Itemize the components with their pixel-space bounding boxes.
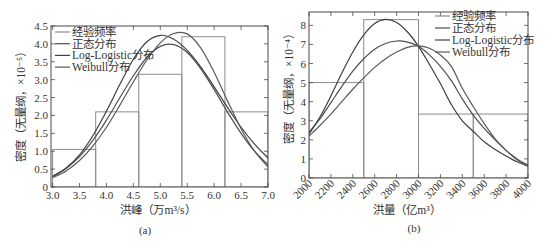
y-tick-label: 2 — [301, 134, 307, 146]
histogram-bar — [309, 83, 364, 178]
x-tick-label: 3.5 — [73, 189, 87, 201]
y-tick-label: 4 — [301, 96, 307, 108]
chart-b-x-axis-label: 洪量（亿m³） — [373, 203, 440, 216]
chart-b-caption: (b) — [408, 222, 421, 235]
x-tick-label: 6.0 — [207, 189, 221, 201]
y-tick-label: 1.0 — [34, 145, 48, 157]
x-tick-label: 3400 — [444, 177, 468, 201]
histogram-bar — [182, 37, 225, 187]
y-tick-label: 4.5 — [34, 20, 48, 32]
y-tick-label: 1 — [301, 153, 307, 165]
x-tick-label: 5.0 — [153, 189, 167, 201]
x-tick-label: 7.0 — [261, 189, 275, 201]
legend-item: Weibull分布 — [55, 61, 130, 73]
chart-b: 2000220024002600280030003200340036003800… — [290, 9, 534, 201]
legend-label: Weibull分布 — [72, 61, 130, 73]
legend-label: 正态分布 — [452, 22, 496, 34]
chart-a-x-axis-label: 洪峰（万m³/s） — [120, 203, 195, 216]
y-tick-label: 2.0 — [34, 109, 48, 121]
x-tick-label: 3800 — [487, 177, 511, 201]
y-tick-label: 3 — [301, 115, 307, 127]
legend-label: Weibull分布 — [452, 46, 510, 58]
legend-label: 正态分布 — [72, 38, 116, 50]
legend-item: Weibull分布 — [435, 46, 510, 58]
histogram-bar — [96, 112, 139, 187]
x-tick-label: 2200 — [312, 177, 336, 201]
y-tick-label: 2.5 — [34, 92, 48, 104]
x-tick-label: 4000 — [509, 177, 533, 201]
histogram-bar — [225, 112, 268, 187]
axis-ticks: 3.03.54.04.55.05.56.06.57.000.51.01.52.0… — [34, 20, 275, 201]
legend-item: 经验频率 — [435, 9, 496, 22]
legend-item: 正态分布 — [435, 22, 496, 34]
y-tick-label: 8 — [301, 19, 307, 31]
chart-b-y-axis-label: 密度（无量纲，×10⁻⁴） — [282, 28, 295, 144]
y-tick-label: 7 — [301, 38, 307, 50]
x-tick-label: 6.5 — [234, 189, 248, 201]
x-tick-label: 4.0 — [100, 189, 114, 201]
y-tick-label: 3.0 — [34, 74, 48, 86]
y-tick-label: 1.5 — [34, 127, 48, 139]
chart-a-caption: (a) — [139, 224, 152, 237]
x-tick-label: 2600 — [356, 177, 380, 201]
x-tick-label: 5.5 — [180, 189, 194, 201]
chart-a-y-axis-label: 密度（无量纲，×10⁻⁵） — [14, 46, 27, 162]
legend: 经验频率正态分布Log-Logistic分布Weibull分布 — [435, 9, 534, 58]
figure: 3.03.54.04.55.05.56.06.57.000.51.01.52.0… — [0, 0, 549, 248]
y-tick-label: 0 — [301, 172, 307, 184]
histogram-bar — [139, 74, 182, 187]
y-tick-label: 0 — [43, 181, 49, 193]
legend-item: 正态分布 — [55, 38, 116, 50]
legend-label: 经验频率 — [452, 9, 496, 22]
y-tick-label: 0.5 — [34, 163, 48, 175]
legend-label: 经验频率 — [72, 25, 116, 38]
x-tick-label: 3600 — [466, 177, 490, 201]
x-tick-label: 3200 — [422, 177, 446, 201]
x-tick-label: 4.5 — [127, 189, 141, 201]
histogram-bar — [53, 149, 96, 187]
legend: 经验频率正态分布Log-Logistic分布Weibull分布 — [55, 25, 154, 73]
y-tick-label: 4.0 — [34, 38, 48, 50]
y-tick-label: 5 — [301, 77, 307, 89]
x-tick-label: 3000 — [400, 177, 424, 201]
chart-a: 3.03.54.04.55.05.56.06.57.000.51.01.52.0… — [34, 20, 275, 201]
y-tick-label: 3.5 — [34, 56, 48, 68]
x-tick-label: 2800 — [378, 177, 402, 201]
x-tick-label: 2400 — [334, 177, 358, 201]
y-tick-label: 6 — [301, 58, 307, 70]
legend-item: 经验频率 — [55, 25, 116, 38]
